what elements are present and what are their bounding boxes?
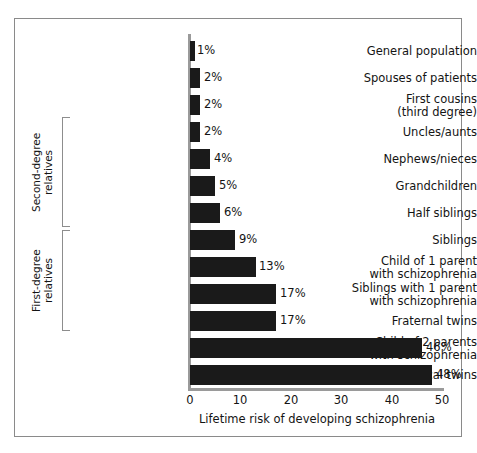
category-label: Fraternal twins <box>295 315 477 328</box>
category-label-line1: Nephews/nieces <box>383 152 477 166</box>
x-tick-label: 30 <box>334 393 349 407</box>
category-label-line2: (third degree) <box>397 105 477 119</box>
bar <box>190 284 276 304</box>
category-label: Half siblings <box>295 207 477 220</box>
bar-value-label: 9% <box>239 234 257 246</box>
bar-row: Child of 1 parentwith schizophrenia 13% <box>0 257 477 277</box>
category-label: General population <box>295 45 477 58</box>
x-tick-label: 50 <box>435 393 450 407</box>
category-label: Siblings <box>295 234 477 247</box>
bar-row: Uncles/aunts 2% <box>0 122 477 142</box>
bar-value-label: 2% <box>204 72 222 84</box>
bar <box>190 41 195 61</box>
bar <box>190 203 220 223</box>
bar <box>190 230 235 250</box>
category-label-line1: Spouses of patients <box>364 71 477 85</box>
bar <box>190 68 200 88</box>
category-label: First cousins(third degree) <box>295 93 477 118</box>
category-label: Nephews/nieces <box>295 153 477 166</box>
bar <box>190 122 200 142</box>
bar-row: Half siblings 6% <box>0 203 477 223</box>
bar <box>190 338 422 358</box>
category-label: Grandchildren <box>295 180 477 193</box>
bar-row: First cousins(third degree) 2% <box>0 95 477 115</box>
category-label: Siblings with 1 parentwith schizophrenia <box>295 282 477 307</box>
bar-value-label: 2% <box>204 99 222 111</box>
x-axis-line <box>188 388 444 391</box>
bar-value-label: 46% <box>426 342 452 354</box>
category-label-line1: General population <box>367 44 477 58</box>
bar-row: Siblings 9% <box>0 230 477 250</box>
bar-value-label: 2% <box>204 126 222 138</box>
bar-value-label: 48% <box>436 369 462 381</box>
bar-row: Grandchildren 5% <box>0 176 477 196</box>
bar-row: Child of 2 parentswith schizophrenia 46% <box>0 338 477 358</box>
bar <box>190 257 256 277</box>
bar-value-label: 5% <box>219 180 237 192</box>
x-axis-title: Lifetime risk of developing schizophreni… <box>188 412 446 426</box>
category-label-line2: with schizophrenia <box>369 294 477 308</box>
bar-value-label: 1% <box>197 45 215 57</box>
x-tick-label: 20 <box>284 393 299 407</box>
bar <box>190 95 200 115</box>
bar-row: Siblings with 1 parentwith schizophrenia… <box>0 284 477 304</box>
x-tick-label: 10 <box>233 393 248 407</box>
category-label: Spouses of patients <box>295 72 477 85</box>
bar-value-label: 17% <box>280 315 306 327</box>
group-label-second-degree-line1: Second-degree <box>30 132 42 211</box>
plot-area: Second-degreerelatives First-degreerelat… <box>0 0 477 453</box>
bar-value-label: 13% <box>259 261 285 273</box>
x-tick-label: 40 <box>385 393 400 407</box>
bar-value-label: 4% <box>214 153 232 165</box>
x-tick-label: 0 <box>186 393 193 407</box>
category-label-line1: Grandchildren <box>396 179 477 193</box>
category-label-line2: with schizophrenia <box>369 267 477 281</box>
category-label-line1: Half siblings <box>407 206 477 220</box>
bar-row: Nephews/nieces 4% <box>0 149 477 169</box>
bar-value-label: 17% <box>280 288 306 300</box>
bar-row: Spouses of patients 2% <box>0 68 477 88</box>
category-label-line1: Fraternal twins <box>392 314 477 328</box>
category-label: Uncles/aunts <box>295 126 477 139</box>
category-label-line1: Siblings <box>432 233 477 247</box>
bar-row: General population 1% <box>0 41 477 61</box>
bar <box>190 365 432 385</box>
category-label-line1: Uncles/aunts <box>403 125 477 139</box>
bar-value-label: 6% <box>224 207 242 219</box>
figure: Second-degreerelatives First-degreerelat… <box>0 0 477 453</box>
bar <box>190 149 210 169</box>
bar-row: Fraternal twins 17% <box>0 311 477 331</box>
bar-row: Identical twins 48% <box>0 365 477 385</box>
category-label: Child of 1 parentwith schizophrenia <box>295 255 477 280</box>
bar <box>190 311 276 331</box>
bar <box>190 176 215 196</box>
